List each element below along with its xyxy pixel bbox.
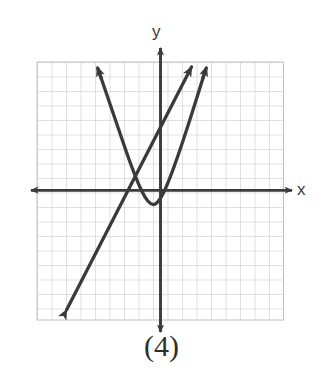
graph-figure bbox=[0, 0, 323, 376]
choice-number-label: (4) bbox=[0, 331, 323, 361]
x-axis-label: x bbox=[297, 181, 306, 198]
y-axis-label: y bbox=[152, 23, 161, 40]
